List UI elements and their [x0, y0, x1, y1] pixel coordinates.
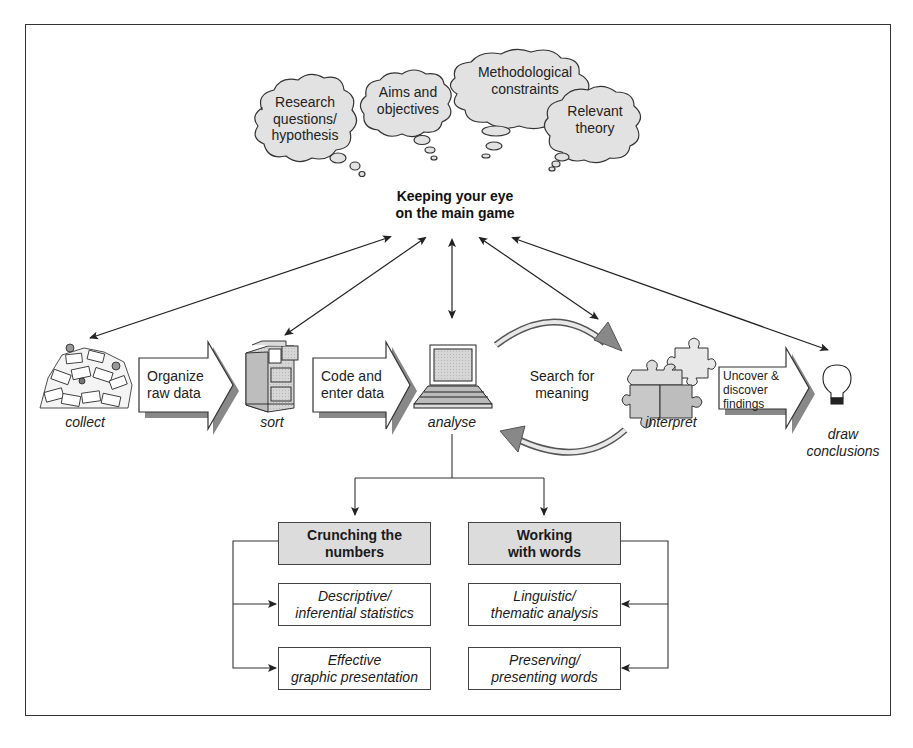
main-goal-line2: on the main game — [370, 205, 540, 222]
cloud-research-line1: Research — [262, 94, 348, 111]
transition-search-line1: Search for — [520, 368, 604, 385]
branch-words-item-linguistic: Linguistic/ thematic analysis — [468, 583, 621, 626]
words-heading-line1: Working — [508, 527, 581, 544]
cloud-methodological: Methodological constraints — [455, 64, 595, 97]
step-draw-line2: conclusions — [798, 443, 888, 460]
step-analyse-label: analyse — [412, 414, 492, 431]
step-draw-conclusions-label: draw conclusions — [798, 426, 888, 459]
words-item1-line2: thematic analysis — [491, 605, 598, 622]
cloud-research-line2: questions/ — [262, 111, 348, 128]
filing-cabinet-icon — [246, 341, 298, 412]
branch-numbers-item-statistics: Descriptive/ inferential statistics — [278, 583, 431, 626]
numbers-item1-line2: inferential statistics — [295, 605, 413, 622]
transition-organize-line2: raw data — [147, 385, 217, 402]
branch-numbers-heading: Crunching the numbers — [278, 522, 431, 565]
cycle-arrow-top-icon — [496, 322, 622, 351]
transition-uncover: Uncover & discover findings — [723, 369, 795, 411]
cloud-aims-line2: objectives — [364, 101, 452, 118]
connector-arrows — [90, 237, 828, 350]
step-collect-label: collect — [40, 414, 130, 431]
cloud-theory-line1: Relevant — [555, 103, 635, 120]
numbers-item2-line2: graphic presentation — [291, 669, 418, 686]
numbers-item1-line1: Descriptive/ — [295, 588, 413, 605]
main-goal-title: Keeping your eye on the main game — [370, 188, 540, 221]
branch-numbers-item-graphics: Effective graphic presentation — [278, 647, 431, 690]
cloud-research-line3: hypothesis — [262, 127, 348, 144]
cloud-methodological-line2: constraints — [455, 81, 595, 98]
branch-words-heading: Working with words — [468, 522, 621, 565]
transition-search: Search for meaning — [520, 368, 604, 401]
cloud-research: Research questions/ hypothesis — [262, 94, 348, 144]
transition-code-line1: Code and — [321, 368, 393, 385]
numbers-heading-line2: numbers — [307, 544, 402, 561]
words-item1-line1: Linguistic/ — [491, 588, 598, 605]
main-goal-line1: Keeping your eye — [370, 188, 540, 205]
transition-search-line2: meaning — [520, 385, 604, 402]
cloud-methodological-line1: Methodological — [455, 64, 595, 81]
paper-pile-icon — [40, 344, 132, 408]
light-bulb-icon — [823, 365, 851, 404]
transition-code-line2: enter data — [321, 385, 393, 402]
numbers-item2-line1: Effective — [291, 652, 418, 669]
transition-code: Code and enter data — [321, 368, 393, 401]
cloud-aims: Aims and objectives — [364, 84, 452, 117]
branch-words-item-presenting: Preserving/ presenting words — [468, 647, 621, 690]
words-item2-line1: Preserving/ — [491, 652, 598, 669]
numbers-heading-line1: Crunching the — [307, 527, 402, 544]
transition-uncover-line3: findings — [723, 397, 795, 411]
cloud-aims-line1: Aims and — [364, 84, 452, 101]
step-sort-label: sort — [232, 414, 312, 431]
step-interpret-label: interpret — [626, 414, 716, 431]
step-draw-line1: draw — [798, 426, 888, 443]
words-item2-line2: presenting words — [491, 669, 598, 686]
transition-organize-line1: Organize — [147, 368, 217, 385]
cloud-theory: Relevant theory — [555, 103, 635, 136]
cloud-theory-line2: theory — [555, 120, 635, 137]
laptop-icon — [414, 345, 492, 408]
transition-organize: Organize raw data — [147, 368, 217, 401]
words-heading-line2: with words — [508, 544, 581, 561]
transition-uncover-line2: discover — [723, 383, 795, 397]
transition-uncover-line1: Uncover & — [723, 369, 795, 383]
cycle-arrow-bottom-icon — [500, 426, 625, 452]
